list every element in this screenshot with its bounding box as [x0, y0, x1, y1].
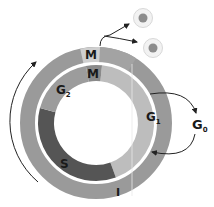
label-outer-m: M — [85, 48, 97, 62]
inner-ring-g1-segment — [101, 73, 146, 170]
nucleus-1 — [139, 14, 148, 23]
label-s: S — [60, 157, 69, 171]
label-g1-sub: 1 — [156, 118, 161, 126]
label-inner-m: M — [87, 67, 99, 81]
daughter-cell-1 — [134, 9, 153, 28]
arrow-mitosis-cell-2 — [104, 36, 137, 42]
cell-cycle-diagram: M M G2 G1 S I G0 — [0, 0, 214, 207]
label-g1-main: G — [146, 110, 156, 124]
label-g0-sub: 0 — [203, 126, 208, 134]
label-g2-main: G — [56, 83, 66, 97]
label-g0-main: G — [192, 117, 203, 132]
ring-separator — [37, 64, 156, 183]
nucleus-2 — [149, 44, 158, 53]
daughter-cell-2 — [144, 39, 163, 58]
inner-ring-s-segment — [46, 110, 113, 173]
label-g2-sub: 2 — [66, 91, 71, 99]
label-g0: G0 — [192, 117, 208, 134]
label-i: I — [116, 186, 120, 199]
arrow-mitosis-cell-1 — [100, 24, 129, 46]
